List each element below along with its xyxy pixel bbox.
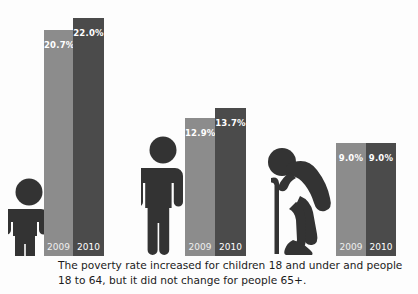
bar-year-label: 2010 [366, 242, 396, 252]
bar-adults-2010: 13.7% 2010 [215, 108, 246, 256]
bar-value-label: 13.7% [215, 118, 246, 128]
bar-year-label: 2009 [185, 242, 215, 252]
bar-children-2010: 22.0% 2010 [73, 18, 104, 256]
bar-group-people-18-to-64: 12.9% 2009 13.7% 2010 [141, 0, 246, 256]
bar-year-label: 2009 [336, 242, 366, 252]
bar-value-label: 22.0% [73, 28, 104, 38]
bar-value-label: 12.9% [185, 128, 215, 138]
bar-value-label: 9.0% [366, 153, 396, 163]
bar-seniors-2009: 9.0% 2009 [336, 143, 366, 256]
bar-group-children-18-and-under: 20.7% 2009 22.0% 2010 [6, 0, 106, 256]
chart-plot-area: 20.7% 2009 22.0% 2010 12.9% 2009 13. [0, 0, 418, 256]
chart-caption: The poverty rate increased for children … [58, 258, 410, 288]
elderly-figure-icon [266, 144, 336, 256]
bar-year-label: 2010 [73, 242, 104, 252]
poverty-rate-infographic: 20.7% 2009 22.0% 2010 12.9% 2009 13. [0, 0, 418, 294]
bar-adults-2009: 12.9% 2009 [185, 118, 215, 256]
bar-seniors-2010: 9.0% 2010 [366, 143, 396, 256]
bar-value-label: 9.0% [336, 153, 366, 163]
bar-group-people-65-plus: 9.0% 2009 9.0% 2010 [266, 0, 396, 256]
bar-year-label: 2010 [215, 242, 246, 252]
bar-year-label: 2009 [44, 242, 73, 252]
bar-value-label: 20.7% [44, 40, 73, 50]
bar-children-2009: 20.7% 2009 [44, 30, 73, 256]
adult-figure-icon [141, 136, 185, 256]
